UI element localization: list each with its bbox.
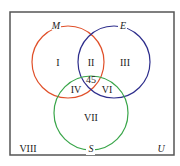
region-i: I — [56, 57, 59, 68]
region-iii: III — [120, 57, 130, 68]
region-iv: IV — [71, 84, 82, 95]
venn-diagram: M E S U I II III IV 45 VI VII VIII — [0, 0, 180, 166]
set-m-label: M — [51, 20, 61, 31]
set-s-label: S — [89, 143, 94, 154]
universe-label: U — [157, 143, 165, 154]
region-viii: VIII — [19, 143, 36, 154]
region-ii: II — [88, 57, 95, 68]
region-vii: VII — [84, 112, 98, 123]
region-vi: VI — [102, 84, 113, 95]
region-v-value: 45 — [86, 74, 96, 85]
set-e-label: E — [119, 20, 126, 31]
